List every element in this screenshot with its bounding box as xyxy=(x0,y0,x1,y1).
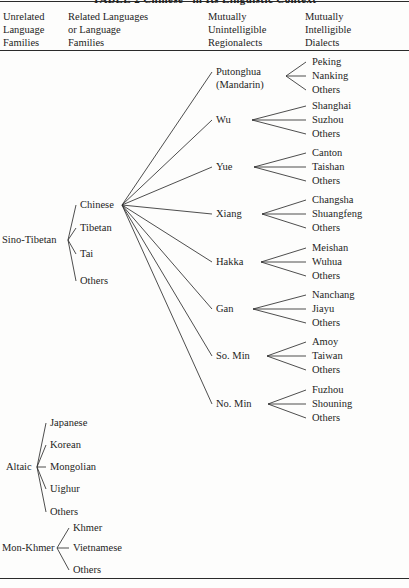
column-header-related-languages: Related Languages or Language Families xyxy=(68,10,198,50)
connector-yue-to-yue-others xyxy=(254,167,306,181)
dialect-node-yue-others: Others xyxy=(312,175,340,187)
node-label: Peking xyxy=(312,56,341,68)
node-label: So. Min xyxy=(216,350,250,362)
node-label: Korean xyxy=(50,439,81,451)
column-header-mutually-unintelligible-regionalects: Mutually Unintelligible Regionalects xyxy=(208,10,303,50)
connector-sino-tibetan-to-tibetan xyxy=(68,228,76,240)
node-label: Mongolian xyxy=(50,461,96,473)
column-header-line: Unintelligible xyxy=(208,23,303,36)
dialect-node-nanchang: Nanchang xyxy=(312,289,355,301)
dialect-node-canton: Canton xyxy=(312,147,342,159)
column-header-line: Related Languages xyxy=(68,10,198,23)
node-label: Khmer xyxy=(73,522,102,534)
node-label: Chinese xyxy=(80,199,114,211)
connector-sino-tibetan-to-tai xyxy=(68,240,76,254)
node-label: Shuangfeng xyxy=(312,208,362,220)
branch-node-tai: Tai xyxy=(80,248,93,260)
connector-altaic-to-al-others xyxy=(37,467,46,512)
column-header-line: or Language xyxy=(68,23,198,36)
node-label: Vietnamese xyxy=(73,542,122,554)
dialect-node-amoy: Amoy xyxy=(312,336,338,348)
table-figure: TABLE 2 Chinese” in Its Linguistic Conte… xyxy=(0,0,409,588)
node-label: Taishan xyxy=(312,161,345,173)
table-bottom-rule xyxy=(0,578,409,579)
connector-gan-to-nanchang xyxy=(253,295,306,309)
node-label: Altaic xyxy=(6,461,32,473)
node-label: Japanese xyxy=(50,417,87,429)
node-label: Others xyxy=(80,275,108,287)
connector-mon-khmer-to-mk-others xyxy=(57,548,69,570)
node-label: Others xyxy=(50,506,78,518)
table-title: TABLE 2 Chinese” in Its Linguistic Conte… xyxy=(0,0,409,5)
regionalect-node-no-min: No. Min xyxy=(216,398,252,410)
connector-putonghua-to-pth-others xyxy=(286,76,306,90)
node-label: Tai xyxy=(80,248,93,260)
column-header-line: Dialects xyxy=(305,36,405,49)
node-label: Jiayu xyxy=(312,303,334,315)
family-node-altaic: Altaic xyxy=(6,461,32,473)
connector-wu-to-shanghai xyxy=(252,106,306,120)
column-header-line: Families xyxy=(68,36,198,49)
connector-xiang-to-changsha xyxy=(262,200,306,214)
connector-chinese-to-yue xyxy=(122,167,212,205)
node-label: Tibetan xyxy=(80,222,112,234)
branch-node-mongolian: Mongolian xyxy=(50,461,96,473)
dialect-node-wu-others: Others xyxy=(312,128,340,140)
node-label: Suzhou xyxy=(312,114,344,126)
connector-altaic-to-uighur xyxy=(37,467,46,489)
connector-altaic-to-korean xyxy=(37,445,46,467)
regionalect-node-wu: Wu xyxy=(216,114,231,126)
node-label: Others xyxy=(312,128,340,140)
dialect-node-pth-others: Others xyxy=(312,84,340,96)
connector-chinese-to-wu xyxy=(122,120,212,205)
node-label: Others xyxy=(312,364,340,376)
dialect-node-fuzhou: Fuzhou xyxy=(312,384,344,396)
connector-so-min-to-amoy xyxy=(267,342,306,356)
dialect-node-shanghai: Shanghai xyxy=(312,100,351,112)
dialect-node-wuhua: Wuhua xyxy=(312,256,342,268)
node-label: Wuhua xyxy=(312,256,342,268)
branch-node-vietnamese: Vietnamese xyxy=(73,542,122,554)
column-header-line: Intelligible xyxy=(305,23,405,36)
column-header-line: Regionalects xyxy=(208,36,303,49)
connector-chinese-to-hakka xyxy=(122,205,212,262)
node-label: Meishan xyxy=(312,242,348,254)
node-label: Wu xyxy=(216,114,231,126)
dialect-node-suzhou: Suzhou xyxy=(312,114,344,126)
dialect-node-nanking: Nanking xyxy=(312,70,348,82)
regionalect-node-yue: Yue xyxy=(216,161,232,173)
dialect-node-changsha: Changsha xyxy=(312,194,353,206)
table-header-rule xyxy=(0,50,409,51)
column-header-mutually-intelligible-dialects: Mutually Intelligible Dialects xyxy=(305,10,405,50)
connector-altaic-to-japanese xyxy=(37,423,46,467)
node-label: Sino-Tibetan xyxy=(2,234,56,246)
connector-chinese-to-so-min xyxy=(122,205,212,356)
node-label: Putonghua xyxy=(216,66,264,79)
node-label: Gan xyxy=(216,303,234,315)
dialect-node-shuangfeng: Shuangfeng xyxy=(312,208,362,220)
connector-hakka-to-hakka-others xyxy=(261,262,306,276)
node-label: Others xyxy=(312,84,340,96)
connector-chinese-to-xiang xyxy=(122,205,212,214)
regionalect-node-so-min: So. Min xyxy=(216,350,250,362)
dialect-node-taishan: Taishan xyxy=(312,161,345,173)
node-label: Uighur xyxy=(50,483,80,495)
connector-chinese-to-no-min xyxy=(122,205,212,404)
dialect-node-shouning: Shouning xyxy=(312,398,352,410)
regionalect-node-hakka: Hakka xyxy=(216,256,243,268)
connector-hakka-to-meishan xyxy=(261,248,306,262)
node-label: Others xyxy=(312,317,340,329)
dialect-node-meishan: Meishan xyxy=(312,242,348,254)
branch-node-tibetan: Tibetan xyxy=(80,222,112,234)
branch-node-mk-others: Others xyxy=(73,564,101,576)
connector-so-min-to-somin-others xyxy=(267,356,306,370)
node-label: Shanghai xyxy=(312,100,351,112)
branch-node-japanese: Japanese xyxy=(50,417,87,429)
node-label: Others xyxy=(312,412,340,424)
node-label: Fuzhou xyxy=(312,384,344,396)
branch-node-khmer: Khmer xyxy=(73,522,102,534)
branch-node-korean: Korean xyxy=(50,439,81,451)
column-header-line: Mutually xyxy=(208,10,303,23)
connector-chinese-to-putonghua xyxy=(122,72,212,205)
connector-chinese-to-gan xyxy=(122,205,212,309)
